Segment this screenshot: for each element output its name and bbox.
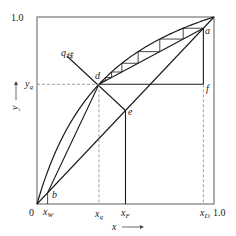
x-max-label: 1.0	[213, 207, 226, 218]
stripping-operating-line	[48, 84, 99, 192]
xq-label: xq	[94, 208, 103, 221]
y-axis-arrow	[14, 81, 18, 100]
x-axis-arrow	[122, 225, 144, 229]
y-max-label: 1.0	[11, 12, 24, 23]
rectifying-operating-line	[99, 28, 203, 84]
xw-label: xW	[42, 206, 54, 219]
mccabe-thiele-diagram: 1.0 0 1.0 x y a b d e f q线 xW xq xF xD y…	[0, 0, 236, 236]
origin-label: 0	[29, 207, 34, 218]
point-b-label: b	[52, 189, 57, 200]
y-axis-label: y	[9, 105, 20, 111]
x-axis-label: x	[111, 221, 117, 232]
q-line	[67, 56, 125, 110]
point-d-label: d	[95, 70, 101, 81]
xd-label: xD	[199, 207, 210, 220]
point-e-label: e	[128, 106, 133, 117]
point-f-label: f	[206, 83, 210, 94]
q-line-label: q线	[61, 47, 74, 60]
xf-label: xF	[120, 207, 130, 220]
point-a-label: a	[205, 25, 210, 36]
yq-label: yq	[24, 78, 33, 91]
